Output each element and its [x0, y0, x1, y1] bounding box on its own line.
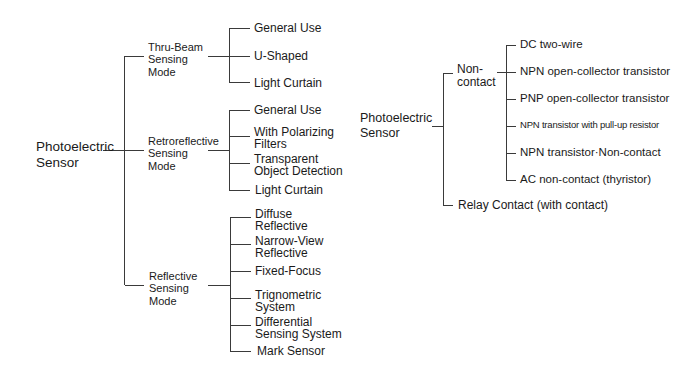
leaf-npn-pull-up: NPN transistor with pull-up resistor: [520, 120, 659, 130]
leaf-npn-non-contact: NPN transistor·Non-contact: [520, 146, 661, 158]
leaf-refl-differential: Differential Sensing System: [255, 316, 342, 340]
leaf-ac-thyristor: AC non-contact (thyristor): [520, 173, 651, 185]
mode-thru-beam-label: Thru-Beam Sensing Mode: [148, 41, 203, 78]
leaf-refl-narrow-view: Narrow-View Reflective: [255, 235, 323, 259]
leaf-retro-general-use: General Use: [254, 104, 321, 116]
leaf-thru-light-curtain: Light Curtain: [254, 77, 322, 89]
leaf-refl-fixed-focus: Fixed-Focus: [255, 265, 321, 277]
leaf-refl-mark-sensor: Mark Sensor: [257, 345, 325, 357]
leaf-pnp-open-collector: PNP open-collector transistor: [520, 92, 669, 104]
branch-relay-contact-label: Relay Contact (with contact): [458, 199, 608, 211]
leaf-npn-open-collector: NPN open-collector transistor: [520, 65, 670, 77]
branch-non-contact-label: Non- contact: [457, 63, 496, 90]
mode-reflective-label: Reflective Sensing Mode: [149, 270, 197, 307]
leaf-refl-trignometric: Trignometric System: [255, 289, 321, 313]
leaf-retro-polarizing: With Polarizing Filters: [254, 126, 334, 150]
leaf-thru-general-use: General Use: [254, 22, 321, 34]
leaf-refl-diffuse: Diffuse Reflective: [255, 208, 308, 232]
leaf-dc-two-wire: DC two-wire: [520, 38, 583, 50]
diagram-canvas: Photoelectric Sensor Thru-Beam Sensing M…: [0, 0, 686, 379]
leaf-retro-transparent: Transparent Object Detection: [254, 153, 343, 177]
left-root-label: Photoelectric Sensor: [36, 139, 114, 171]
mode-retroreflective-label: Retroreflective Sensing Mode: [148, 135, 219, 172]
leaf-thru-u-shaped: U-Shaped: [254, 50, 308, 62]
leaf-retro-light-curtain: Light Curtain: [255, 184, 323, 196]
right-root-label: Photoelectric Sensor: [360, 111, 432, 141]
connector-lines: [0, 0, 686, 379]
